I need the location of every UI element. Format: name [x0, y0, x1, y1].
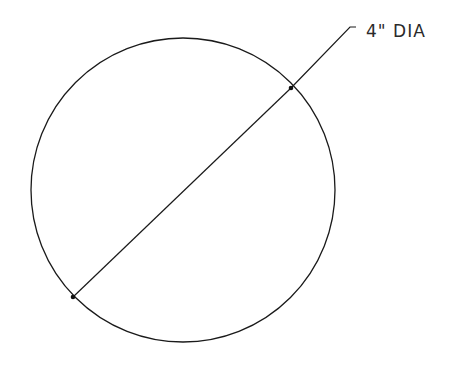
diameter-line: [73, 88, 291, 297]
diameter-endpoint-lower: [71, 295, 76, 300]
diagram-canvas: [0, 0, 461, 370]
dimension-label: 4" DIA: [366, 21, 426, 42]
circle-shape: [31, 38, 335, 342]
leader-line: [291, 27, 356, 88]
diameter-endpoint-upper: [289, 86, 294, 91]
